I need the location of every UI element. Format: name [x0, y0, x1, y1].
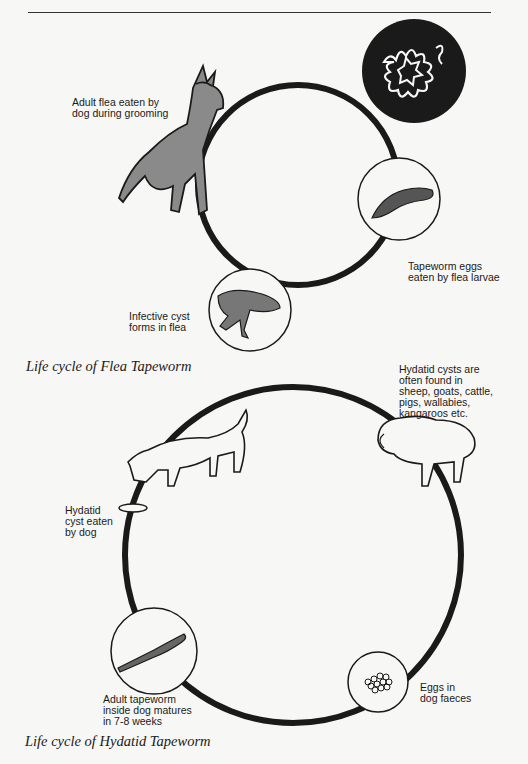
label-cyst-eaten: Hydatid cyst eaten by dog — [65, 505, 113, 538]
tapeworm-icon — [111, 608, 197, 694]
tapeworm-lifecycle-figure: Adult flea eaten by dog during grooming … — [0, 0, 528, 764]
eggs-icon — [348, 652, 408, 712]
label-larvae: Tapeworm eggs eaten by flea larvae — [408, 261, 500, 283]
flea-larva-icon — [358, 158, 440, 240]
sheep-icon — [378, 416, 475, 486]
label-eggs: Eggs in dog faeces — [420, 682, 471, 704]
flea-icon — [209, 269, 291, 351]
worm-circle-icon — [362, 19, 466, 123]
label-adult-tapeworm: Adult tapeworm inside dog matures in 7-8… — [103, 694, 192, 727]
caption-hydatid-tapeworm: Life cycle of Hydatid Tapeworm — [25, 733, 211, 750]
caption-flea-tapeworm: Life cycle of Flea Tapeworm — [26, 358, 191, 375]
label-cyst-flea: Infective cyst forms in flea — [129, 311, 190, 333]
label-dog-grooming: Adult flea eaten by dog during grooming — [72, 97, 168, 119]
label-hydatid-hosts: Hydatid cysts are often found in sheep, … — [399, 364, 493, 419]
